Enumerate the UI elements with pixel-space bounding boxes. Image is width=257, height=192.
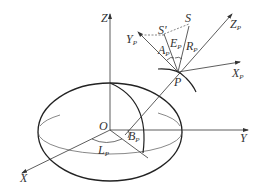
label-origin: O [99, 119, 108, 133]
label-s: S [185, 11, 191, 25]
label-p: P [173, 75, 182, 89]
label-z: Z [101, 11, 108, 25]
label-elevation: EP [169, 36, 182, 51]
local-x-axis [178, 62, 240, 72]
s-sprime-dashed [164, 24, 189, 34]
label-yp: YP [126, 32, 138, 47]
label-latitude: BP [128, 129, 140, 144]
label-s-prime: S' [158, 23, 167, 37]
longitude-arc [92, 139, 122, 143]
geodetic-diagram: Z Y X O P S S' ZP YP XP AP EP RP BP LP [0, 0, 257, 192]
label-xp: XP [231, 66, 244, 81]
equator-back-left [40, 115, 60, 126]
label-x: X [19, 171, 28, 185]
x-axis [22, 130, 110, 173]
label-longitude: LP [97, 143, 110, 158]
label-zp: ZP [230, 17, 242, 32]
label-range: RP [185, 39, 198, 54]
equator-front [38, 132, 182, 154]
equator-back-right [158, 113, 180, 126]
label-y: Y [240, 131, 248, 145]
